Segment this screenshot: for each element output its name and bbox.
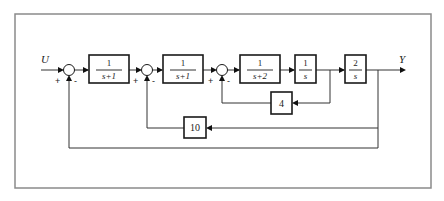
diagram-frame <box>15 14 431 188</box>
g1-numerator: 1 <box>107 58 112 68</box>
block-g3: 1 s+2 <box>240 55 280 83</box>
input-label: U <box>41 53 50 65</box>
g5-denominator: s <box>354 71 358 81</box>
block-g1: 1 s+1 <box>89 55 129 83</box>
g1-denominator: s+1 <box>102 71 116 81</box>
block-g5: 2 s <box>345 55 366 83</box>
sum2-minus-sign: - <box>152 76 155 86</box>
block-h2-gain-10: 10 <box>184 117 206 138</box>
block-g4: 1 s <box>295 55 316 83</box>
arrow-head-icon <box>83 67 89 73</box>
g3-numerator: 1 <box>258 58 263 68</box>
arrow-head-icon <box>292 100 298 106</box>
block-h1-gain-4: 4 <box>271 92 292 114</box>
g2-numerator: 1 <box>181 58 186 68</box>
block-diagram: + - + - + - 1 s+1 1 s+1 1 s+2 1 s 2 <box>0 0 444 201</box>
block-g2: 1 s+1 <box>163 55 203 83</box>
arrow-head-icon <box>206 125 212 131</box>
g4-denominator: s <box>304 71 308 81</box>
arrow-head-icon <box>157 67 163 73</box>
arrow-head-icon <box>339 67 345 73</box>
g3-denominator: s+2 <box>253 71 268 81</box>
g4-numerator: 1 <box>303 58 308 68</box>
feedback-wire-unity <box>69 77 378 148</box>
g5-numerator: 2 <box>353 58 358 68</box>
arrow-head-icon <box>400 67 406 73</box>
sum3-plus-sign: + <box>208 76 213 86</box>
h2-gain-value: 10 <box>190 122 200 133</box>
output-label: Y <box>399 53 407 65</box>
sum2-plus-sign: + <box>133 76 138 86</box>
g2-denominator: s+1 <box>176 71 190 81</box>
sum1-plus-sign: + <box>55 76 60 86</box>
arrow-head-icon <box>289 67 295 73</box>
h1-gain-value: 4 <box>279 98 284 109</box>
sum3-minus-sign: - <box>227 76 230 86</box>
arrow-head-icon <box>234 67 240 73</box>
sum1-minus-sign: - <box>74 76 77 86</box>
